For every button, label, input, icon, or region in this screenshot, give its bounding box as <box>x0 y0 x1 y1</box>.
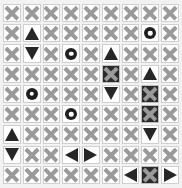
grid-cell[interactable] <box>160 23 180 43</box>
x-mark-icon <box>143 87 157 101</box>
grid-cell[interactable] <box>42 165 62 185</box>
grid-cell[interactable] <box>61 43 81 63</box>
grid-cell[interactable] <box>2 64 22 84</box>
grid-cell[interactable] <box>81 43 101 63</box>
grid-cell[interactable] <box>42 145 62 165</box>
grid-cell[interactable] <box>61 23 81 43</box>
grid-cell[interactable] <box>140 124 160 144</box>
grid-cell[interactable] <box>61 84 81 104</box>
grid-cell[interactable] <box>2 3 22 23</box>
grid-cell[interactable] <box>42 124 62 144</box>
grid-cell[interactable] <box>81 3 101 23</box>
grid-cell-face <box>141 166 159 184</box>
grid-cell[interactable] <box>160 43 180 63</box>
grid-cell-face <box>62 4 80 22</box>
grid-cell[interactable] <box>81 64 101 84</box>
grid-cell[interactable] <box>61 124 81 144</box>
grid-cell[interactable] <box>101 84 121 104</box>
grid-cell[interactable] <box>121 104 141 124</box>
grid-cell-face <box>82 146 100 164</box>
grid-cell[interactable] <box>140 104 160 124</box>
grid-cell[interactable] <box>42 43 62 63</box>
grid-cell-face <box>161 125 179 143</box>
grid-cell[interactable] <box>101 23 121 43</box>
grid-cell[interactable] <box>2 43 22 63</box>
grid-cell[interactable] <box>2 145 22 165</box>
grid-cell[interactable] <box>61 165 81 185</box>
grid-cell[interactable] <box>140 3 160 23</box>
grid-cell[interactable] <box>140 43 160 63</box>
grid-cell[interactable] <box>121 43 141 63</box>
grid-cell[interactable] <box>81 84 101 104</box>
grid-cell-face <box>161 44 179 62</box>
grid-cell[interactable] <box>22 84 42 104</box>
grid-cell[interactable] <box>160 165 180 185</box>
grid-cell-face <box>3 65 21 83</box>
grid-cell[interactable] <box>42 23 62 43</box>
grid-cell[interactable] <box>2 84 22 104</box>
grid-cell[interactable] <box>22 145 42 165</box>
grid-cell[interactable] <box>81 23 101 43</box>
grid-cell[interactable] <box>160 84 180 104</box>
grid-cell[interactable] <box>42 104 62 124</box>
grid-cell-face <box>102 44 120 62</box>
grid-cell[interactable] <box>101 124 121 144</box>
x-mark-icon <box>64 87 78 101</box>
grid-cell[interactable] <box>61 64 81 84</box>
grid-cell[interactable] <box>61 104 81 124</box>
grid-cell-face <box>122 146 140 164</box>
grid-cell[interactable] <box>61 3 81 23</box>
grid-cell[interactable] <box>22 3 42 23</box>
grid-cell[interactable] <box>101 64 121 84</box>
grid-cell[interactable] <box>2 124 22 144</box>
grid-cell[interactable] <box>2 165 22 185</box>
x-mark-icon <box>104 148 118 162</box>
grid-cell-face <box>102 65 120 83</box>
grid-cell[interactable] <box>81 165 101 185</box>
grid-cell[interactable] <box>61 145 81 165</box>
grid-cell[interactable] <box>121 165 141 185</box>
grid-cell[interactable] <box>121 3 141 23</box>
grid-cell-face <box>62 146 80 164</box>
grid-cell[interactable] <box>22 43 42 63</box>
grid-cell[interactable] <box>22 124 42 144</box>
grid-cell[interactable] <box>121 23 141 43</box>
grid-cell[interactable] <box>101 145 121 165</box>
grid-cell[interactable] <box>81 145 101 165</box>
grid-cell[interactable] <box>22 104 42 124</box>
grid-cell[interactable] <box>81 124 101 144</box>
grid-cell[interactable] <box>22 64 42 84</box>
grid-cell[interactable] <box>81 104 101 124</box>
grid-cell[interactable] <box>22 23 42 43</box>
grid-cell[interactable] <box>121 84 141 104</box>
grid-cell[interactable] <box>101 3 121 23</box>
grid-cell[interactable] <box>140 64 160 84</box>
grid-cell[interactable] <box>140 84 160 104</box>
grid-cell[interactable] <box>140 165 160 185</box>
grid-cell[interactable] <box>42 3 62 23</box>
x-mark-icon <box>44 6 58 20</box>
grid-cell[interactable] <box>42 64 62 84</box>
grid-cell[interactable] <box>101 43 121 63</box>
grid-cell[interactable] <box>121 145 141 165</box>
grid-cell[interactable] <box>22 165 42 185</box>
grid-cell[interactable] <box>160 145 180 165</box>
x-mark-icon <box>124 107 138 121</box>
grid-cell[interactable] <box>160 64 180 84</box>
grid-cell[interactable] <box>160 124 180 144</box>
grid-cell[interactable] <box>160 104 180 124</box>
grid-cell-face <box>102 125 120 143</box>
grid-cell[interactable] <box>2 104 22 124</box>
grid-cell[interactable] <box>140 23 160 43</box>
grid-cell-face <box>141 105 159 123</box>
grid-cell[interactable] <box>2 23 22 43</box>
grid-cell[interactable] <box>121 124 141 144</box>
grid-cell[interactable] <box>42 84 62 104</box>
x-mark-icon <box>44 47 58 61</box>
grid-cell[interactable] <box>101 104 121 124</box>
grid-cell[interactable] <box>121 64 141 84</box>
grid-cell[interactable] <box>140 145 160 165</box>
x-mark-icon <box>104 107 118 121</box>
grid-cell[interactable] <box>160 3 180 23</box>
grid-cell[interactable] <box>101 165 121 185</box>
